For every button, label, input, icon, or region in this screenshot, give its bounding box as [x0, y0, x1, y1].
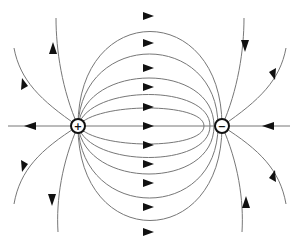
- positive-sign: +: [74, 121, 82, 132]
- positive-charge: +: [71, 119, 85, 133]
- negative-sign: −: [218, 121, 226, 132]
- arrowheads: [21, 12, 276, 236]
- negative-charge: −: [215, 119, 229, 133]
- dipole-field-diagram: + −: [0, 0, 298, 244]
